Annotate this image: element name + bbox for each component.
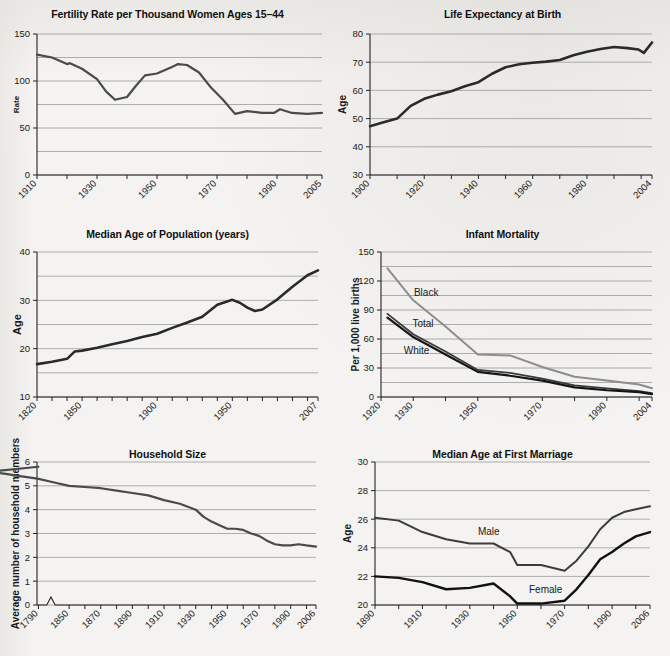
y-tick-label: 30 bbox=[363, 362, 374, 373]
y-tick-label: 4 bbox=[25, 504, 30, 515]
panel-infant-mortality: Infant Mortality 03060901201501920193019… bbox=[335, 220, 670, 440]
y-tick-label: 70 bbox=[352, 57, 363, 68]
y-tick-label: 60 bbox=[352, 85, 363, 96]
y-tick-label: 80 bbox=[352, 28, 363, 39]
x-tick-label: 1870 bbox=[79, 608, 102, 631]
x-tick-label: 2006 bbox=[629, 608, 652, 631]
x-tick-label: 1950 bbox=[496, 608, 519, 631]
panel-median-age-population: Median Age of Population (years) 1020304… bbox=[0, 220, 335, 440]
chart-svg-fertility-rate: 050100150191019301950197019902005Rate bbox=[0, 0, 335, 220]
x-tick-label: 1910 bbox=[16, 178, 39, 201]
series-line-average-household-size bbox=[0, 467, 316, 547]
y-axis-title: Per 1,000 live births bbox=[350, 277, 361, 371]
panel-fertility-rate: Fertility Rate per Thousand Women Ages 1… bbox=[0, 0, 335, 220]
y-tick-label: 6 bbox=[25, 456, 30, 467]
x-tick-label: 2006 bbox=[295, 608, 318, 631]
x-tick-label: 1910 bbox=[401, 608, 424, 631]
x-tick-label: 1940 bbox=[457, 178, 480, 201]
y-tick-label: 60 bbox=[363, 333, 374, 344]
series-annotation-white: White bbox=[404, 345, 430, 356]
y-tick-label: 28 bbox=[357, 485, 368, 496]
series-line-median-age bbox=[37, 270, 318, 364]
series-annotation-black: Black bbox=[414, 287, 439, 298]
panel-median-age-first-marriage: Median Age at First Marriage 20222426283… bbox=[335, 440, 670, 656]
y-axis-title: Average number of household members bbox=[10, 437, 21, 629]
series-line-fertility-rate bbox=[37, 55, 322, 114]
series-annotation-male: Male bbox=[478, 526, 500, 537]
y-tick-label: 26 bbox=[357, 514, 368, 525]
x-tick-label: 1930 bbox=[76, 178, 99, 201]
x-tick-label: 1990 bbox=[269, 608, 292, 631]
x-tick-label: 1900 bbox=[136, 400, 159, 423]
x-tick-label: 1990 bbox=[591, 608, 614, 631]
chart-svg-median-age-first-marriage: 2022242628301890191019301950197019902006… bbox=[335, 440, 670, 656]
chart-grid: Fertility Rate per Thousand Women Ages 1… bbox=[0, 0, 670, 656]
x-tick-label: 1910 bbox=[143, 608, 166, 631]
x-tick-label: 1950 bbox=[206, 608, 229, 631]
x-tick-label: 1890 bbox=[354, 608, 377, 631]
y-tick-label: 40 bbox=[352, 141, 363, 152]
x-tick-label: 1990 bbox=[586, 400, 609, 423]
x-tick-label: 1950 bbox=[456, 400, 479, 423]
x-tick-label: 2005 bbox=[301, 178, 324, 201]
y-tick-label: 30 bbox=[19, 295, 30, 306]
x-tick-label: 2007 bbox=[297, 400, 320, 423]
y-tick-label: 2 bbox=[25, 552, 30, 563]
x-tick-label: 1950 bbox=[136, 178, 159, 201]
x-tick-label: 1990 bbox=[256, 178, 279, 201]
x-tick-label: 1930 bbox=[174, 608, 197, 631]
x-tick-label: 1850 bbox=[61, 400, 84, 423]
y-tick-label: 150 bbox=[358, 246, 374, 257]
x-tick-label: 1970 bbox=[543, 608, 566, 631]
y-tick-label: 150 bbox=[14, 28, 30, 39]
x-axis-with-break bbox=[37, 597, 316, 605]
x-tick-label: 1970 bbox=[196, 178, 219, 201]
series-line-life-expectancy bbox=[370, 42, 652, 126]
x-tick-label: 1920 bbox=[403, 178, 426, 201]
x-tick-label: 1920 bbox=[360, 400, 383, 423]
y-axis-title: Age bbox=[11, 314, 23, 335]
x-tick-label: 1850 bbox=[48, 608, 71, 631]
series-annotation-total: Total bbox=[412, 318, 433, 329]
x-tick-label: 1960 bbox=[511, 178, 534, 201]
y-tick-label: 50 bbox=[352, 113, 363, 124]
y-tick-label: 1 bbox=[25, 576, 30, 587]
x-tick-label: 1980 bbox=[566, 178, 589, 201]
series-line-male bbox=[375, 506, 650, 570]
x-tick-label: 1950 bbox=[211, 400, 234, 423]
y-tick-label: 24 bbox=[357, 542, 368, 553]
chart-svg-infant-mortality: 0306090120150192019301950197019902004Per… bbox=[335, 220, 670, 440]
x-tick-label: 2004 bbox=[631, 400, 654, 423]
x-tick-label: 2004 bbox=[631, 178, 654, 201]
y-tick-label: 90 bbox=[363, 304, 374, 315]
x-tick-label: 1970 bbox=[521, 400, 544, 423]
y-axis-title: Age bbox=[342, 524, 353, 543]
chart-svg-life-expectancy: 304050607080190019201940196019802004Age bbox=[335, 0, 670, 220]
panel-household-size: Household Size 0123456179018501870189019… bbox=[0, 440, 335, 656]
y-tick-label: 3 bbox=[25, 528, 30, 539]
panel-life-expectancy: Life Expectancy at Birth 304050607080190… bbox=[335, 0, 670, 220]
y-tick-label: 50 bbox=[19, 122, 30, 133]
x-tick-label: 1930 bbox=[449, 608, 472, 631]
y-tick-label: 40 bbox=[19, 246, 30, 257]
series-annotation-female: Female bbox=[529, 584, 563, 595]
chart-svg-household-size: 0123456179018501870189019101930195019701… bbox=[0, 440, 335, 656]
x-tick-label: 1930 bbox=[392, 400, 415, 423]
y-axis-title: Rate bbox=[12, 95, 21, 113]
x-tick-label: 1970 bbox=[238, 608, 261, 631]
y-tick-label: 30 bbox=[357, 456, 368, 467]
x-tick-label: 1890 bbox=[111, 608, 134, 631]
y-tick-label: 20 bbox=[19, 343, 30, 354]
x-tick-label: 1820 bbox=[16, 400, 39, 423]
y-tick-label: 100 bbox=[14, 75, 30, 86]
y-tick-label: 22 bbox=[357, 571, 368, 582]
x-tick-label: 1900 bbox=[349, 178, 372, 201]
series-line-female bbox=[375, 532, 650, 604]
chart-svg-median-age-population: 1020304018201850190019502007Age bbox=[0, 220, 335, 440]
y-axis-title: Age bbox=[337, 95, 348, 114]
y-tick-label: 0 bbox=[25, 599, 30, 610]
y-tick-label: 5 bbox=[25, 480, 30, 491]
